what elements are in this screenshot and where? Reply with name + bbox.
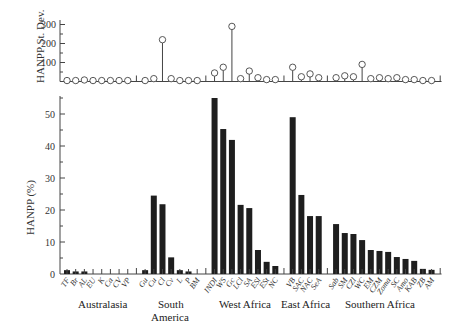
stem-marker (64, 77, 70, 83)
bottom-y-tick-label: 10 (45, 237, 55, 248)
category-label: NC (266, 275, 280, 290)
stem-marker (194, 77, 200, 83)
category-label: BM (188, 275, 203, 291)
category-label: EU (84, 275, 99, 291)
bar (159, 204, 165, 274)
category-label: VP (119, 276, 132, 289)
stem-marker (368, 75, 374, 81)
stem-marker (307, 71, 313, 77)
category-label: SeA (309, 276, 324, 291)
bar (298, 195, 304, 274)
region-label-southern-africa: Southern Africa (345, 298, 415, 310)
bottom-y-tick-label: 50 (45, 109, 55, 120)
stem-marker (159, 37, 165, 43)
bar (220, 129, 226, 274)
stem-marker (385, 75, 391, 81)
stem-marker (272, 76, 278, 82)
stem-marker (237, 75, 243, 81)
region-label-south-america-2: America (151, 311, 189, 323)
bar (238, 205, 244, 274)
hanpp-bar-panel: 10203040500TFBrALEUKCaCVVPGuCuClCvLPBMIN… (45, 96, 442, 296)
bar (342, 233, 348, 274)
stem-marker (99, 77, 105, 83)
bottom-y-tick-label: 30 (45, 173, 55, 184)
category-label: Cv (163, 276, 176, 289)
stem-marker (246, 68, 252, 74)
stem-marker (107, 77, 113, 83)
stem-marker (229, 23, 235, 29)
bar (290, 117, 296, 274)
bottom-y-tick-label: 40 (45, 141, 55, 152)
stem-marker (394, 75, 400, 81)
stem-marker (376, 75, 382, 81)
stem-marker (142, 77, 148, 83)
stem-marker (185, 77, 191, 83)
stem-marker (72, 77, 78, 83)
stem-marker (298, 74, 304, 80)
stem-marker (177, 77, 183, 83)
stem-marker (90, 77, 96, 83)
bottom-y-axis-label: HANPP (%) (24, 180, 37, 235)
stem-marker (316, 75, 322, 81)
bar (212, 98, 218, 274)
stem-marker (359, 61, 365, 67)
bar (151, 196, 157, 274)
stem-marker (220, 64, 226, 70)
bar (316, 216, 322, 274)
hanpp-chart: 100200300 10203040500TFBrALEUKCaCVVPGuCu… (0, 0, 461, 336)
stem-marker (125, 77, 131, 83)
bar (246, 208, 252, 274)
stem-marker (263, 76, 269, 82)
stem-marker (151, 75, 157, 81)
stem-marker (168, 75, 174, 81)
stem-marker (350, 74, 356, 80)
bar (333, 224, 339, 274)
bottom-y-tick-label: 20 (45, 205, 55, 216)
stem-marker (211, 70, 217, 76)
stem-marker (255, 75, 261, 81)
stem-marker (411, 76, 417, 82)
bar (359, 240, 365, 274)
bar (229, 140, 235, 274)
stem-marker (81, 77, 87, 83)
bar (307, 216, 313, 274)
stem-marker (116, 77, 122, 83)
stem-marker (428, 77, 434, 83)
region-label-west-africa: West Africa (219, 298, 271, 310)
category-label: AM (422, 275, 437, 292)
region-label-australasia: Australasia (78, 298, 128, 310)
stem-marker (420, 77, 426, 83)
stem-marker (333, 75, 339, 81)
region-label-east-africa: East Africa (281, 298, 330, 310)
stem-marker (342, 73, 348, 79)
region-label-south-america-1: South (158, 298, 184, 310)
stem-marker (289, 64, 295, 70)
bottom-y-tick-label: 0 (50, 269, 55, 280)
bar (350, 234, 356, 274)
std-dev-stem-panel: 100200300 (41, 19, 442, 84)
top-y-axis-label: HANPP St. Dev. (34, 9, 46, 83)
stem-marker (402, 76, 408, 82)
